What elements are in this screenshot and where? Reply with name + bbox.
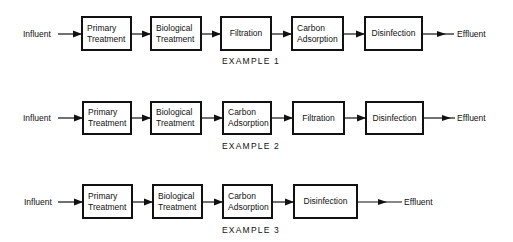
influent-label: Influent <box>23 113 51 123</box>
step-biological-treatment: Biological Treatment <box>152 184 203 219</box>
step-filtration: Filtration <box>292 101 345 135</box>
step-disinfection: Disinfection <box>293 184 358 219</box>
step-carbon-adsorption: Carbon Adsorption <box>291 16 344 51</box>
step-biological-treatment: Biological Treatment <box>150 101 202 135</box>
step-disinfection: Disinfection <box>365 101 424 135</box>
influent-label: Influent <box>23 29 51 39</box>
step-primary-treatment: Primary Treatment <box>82 101 132 135</box>
effluent-label: Effluent <box>404 197 433 207</box>
example-caption: EXAMPLE 2 <box>222 141 280 151</box>
effluent-label: Effluent <box>457 113 486 123</box>
step-primary-treatment: Primary Treatment <box>82 184 133 219</box>
step-filtration: Filtration <box>220 16 272 51</box>
influent-label: Influent <box>24 197 52 207</box>
step-carbon-adsorption: Carbon Adsorption <box>222 101 272 135</box>
step-primary-treatment: Primary Treatment <box>81 16 132 51</box>
example-caption: EXAMPLE 3 <box>222 225 280 235</box>
treatment-flow-diagram: Influent Primary Treatment Biological Tr… <box>0 0 513 242</box>
step-carbon-adsorption: Carbon Adsorption <box>222 184 273 219</box>
example-caption: EXAMPLE 1 <box>222 56 280 66</box>
step-disinfection: Disinfection <box>364 16 423 51</box>
step-biological-treatment: Biological Treatment <box>150 16 202 51</box>
effluent-label: Effluent <box>457 29 486 39</box>
